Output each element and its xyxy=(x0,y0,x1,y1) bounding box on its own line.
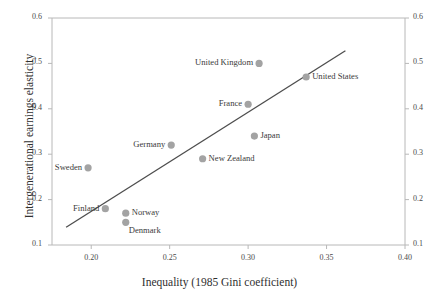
x-tick-label: 0.35 xyxy=(309,253,345,262)
y-tick-label-right: 0.3 xyxy=(413,148,439,157)
y-tick-label-right: 0.6 xyxy=(413,12,439,21)
data-point-marker xyxy=(255,60,262,67)
data-point-label: Japan xyxy=(260,130,280,140)
data-point-label: Finland xyxy=(0,203,99,213)
x-axis-title: Inequality (1985 Gini coefficient) xyxy=(0,276,439,288)
scatter-plot-figure: 0.10.10.20.20.30.30.40.40.50.50.60.60.20… xyxy=(0,0,439,299)
data-point-marker xyxy=(122,210,129,217)
data-point-marker xyxy=(251,132,258,139)
x-tick-label: 0.20 xyxy=(73,253,109,262)
data-point-label: Denmark xyxy=(129,225,161,235)
data-point-label: Norway xyxy=(132,207,160,217)
y-tick-label-right: 0.5 xyxy=(413,57,439,66)
axis-ticks xyxy=(48,18,409,249)
y-tick-label-right: 0.1 xyxy=(413,239,439,248)
data-point-marker xyxy=(168,142,175,149)
data-point-marker xyxy=(245,101,252,108)
data-point-marker xyxy=(199,155,206,162)
data-point-marker xyxy=(102,205,109,212)
y-tick-label-right: 0.4 xyxy=(413,103,439,112)
data-point-label: United Kingdom xyxy=(0,57,253,67)
y-tick-label-right: 0.2 xyxy=(413,194,439,203)
data-point-label: France xyxy=(0,98,242,108)
data-point-marker xyxy=(84,164,91,171)
data-point-label: United States xyxy=(312,71,358,81)
x-tick-label: 0.40 xyxy=(387,253,423,262)
data-point-marker xyxy=(303,73,310,80)
y-axis-title: Intergenerational earnings elasticity xyxy=(23,11,35,261)
data-point-label: Sweden xyxy=(0,162,82,172)
x-tick-label: 0.30 xyxy=(230,253,266,262)
plot-canvas xyxy=(0,0,439,299)
x-tick-label: 0.25 xyxy=(152,253,188,262)
data-point-label: New Zealand xyxy=(209,153,255,163)
